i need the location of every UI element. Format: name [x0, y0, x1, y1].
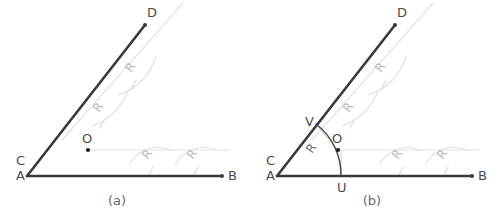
label-U-panel-b: U: [337, 180, 347, 195]
center-point-dot-O-panel-b: [336, 148, 340, 152]
ghost-leader-lower-1: [149, 167, 153, 175]
dimension-label-r-b-arc: R: [303, 141, 319, 156]
label-V-panel-b: V: [305, 114, 314, 129]
ghost-leader-lower-1-b: [399, 167, 403, 175]
label-O-panel-a: O: [82, 131, 92, 146]
label-D-panel-a: D: [147, 5, 157, 20]
panel-b: C A D B O V U R R R R R (b): [266, 3, 487, 208]
endpoint-dot-D-panel-b: [393, 23, 397, 27]
caption-panel-a: (a): [108, 193, 126, 208]
label-C-panel-b: C: [266, 153, 275, 168]
label-A-panel-b: A: [266, 168, 275, 183]
ghost-leader-lower-2-b: [444, 167, 448, 175]
ray-CD-panel-b: [277, 25, 395, 176]
endpoint-dot-D-panel-a: [143, 23, 147, 27]
panel-a: C A D B O R R R R (a): [16, 3, 237, 208]
label-A-panel-a: A: [16, 168, 25, 183]
dimension-label-r-b-2: R: [340, 100, 356, 115]
dimension-label-r-a-2: R: [90, 100, 106, 115]
ghost-leader-lower-2: [194, 167, 198, 175]
center-point-dot-O-panel-a: [86, 148, 90, 152]
label-B-panel-a: B: [228, 168, 237, 183]
geometry-figure-root: C A D B O R R R R (a): [0, 0, 500, 222]
caption-panel-b: (b): [363, 193, 381, 208]
label-C-panel-a: C: [16, 153, 25, 168]
ghost-parallel-guide-upper: [62, 3, 183, 140]
ghost-parallel-guide-upper-b: [312, 3, 433, 140]
label-D-panel-b: D: [397, 5, 407, 20]
label-B-panel-b: B: [478, 168, 487, 183]
label-O-panel-b: O: [332, 131, 342, 146]
ray-CD-panel-a: [27, 25, 145, 176]
figure-canvas: C A D B O R R R R (a): [0, 0, 500, 222]
endpoint-dot-B-panel-a: [220, 174, 224, 178]
endpoint-dot-B-panel-b: [470, 174, 474, 178]
